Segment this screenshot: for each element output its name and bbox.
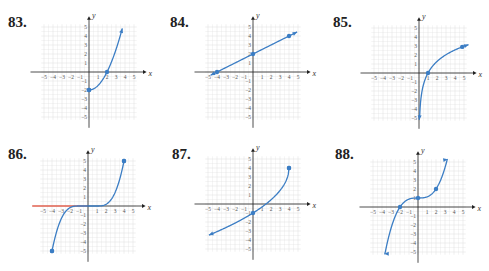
x-axis-arrow-icon <box>472 205 476 209</box>
x-tick-label: 1 <box>426 209 429 215</box>
x-tick-label: 3 <box>444 209 447 215</box>
x-tick-label: 2 <box>435 209 438 215</box>
x-tick-label: −3 <box>388 209 394 215</box>
x-tick-label: 4 <box>453 209 456 215</box>
graph-88: xy−5−4−3−2−11234554321−1−2−3−4−5 <box>0 0 489 271</box>
x-axis-label: x <box>476 204 481 213</box>
data-point-dot <box>434 187 438 191</box>
y-tick-label: −2 <box>410 222 416 228</box>
x-tick-label: −4 <box>379 209 385 215</box>
y-axis-arrow-icon <box>416 151 420 155</box>
data-point-dot <box>398 205 402 209</box>
y-tick-label: −3 <box>410 231 416 237</box>
y-tick-label: 4 <box>413 168 416 174</box>
x-tick-label: −5 <box>370 209 376 215</box>
y-tick-label: −5 <box>410 249 416 255</box>
data-point-dot <box>416 196 420 200</box>
y-tick-label: 3 <box>413 177 416 183</box>
y-tick-label: 5 <box>413 159 416 165</box>
y-axis-label: y <box>420 146 425 155</box>
y-tick-label: −1 <box>410 213 416 219</box>
y-tick-label: 2 <box>413 186 416 192</box>
y-tick-label: −4 <box>410 240 416 246</box>
x-tick-label: 5 <box>462 209 465 215</box>
